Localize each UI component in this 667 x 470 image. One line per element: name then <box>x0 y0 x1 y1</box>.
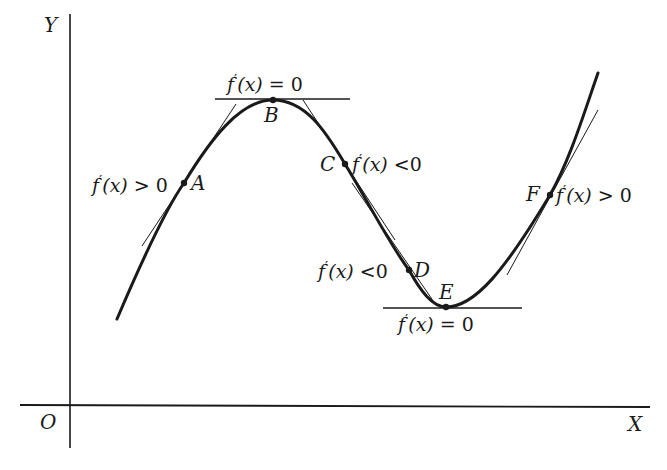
x-axis <box>20 405 650 407</box>
label-C: C <box>320 152 335 176</box>
origin-label: O <box>40 410 56 434</box>
annotation-F: f′(x) > 0 <box>554 183 632 206</box>
y-axis-label: Y <box>44 13 59 37</box>
annotation-B: f′(x) = 0 <box>225 72 303 95</box>
x-axis-label: X <box>626 412 643 436</box>
label-F: F <box>525 182 541 206</box>
annotation-A: f′(x) > 0 <box>90 173 168 196</box>
label-D: D <box>413 258 430 282</box>
point-F <box>547 192 553 198</box>
annotation-D: f′(x) <0 <box>316 259 388 282</box>
axes: Y X O <box>20 13 650 448</box>
annotation-C: f′(x) <0 <box>350 152 422 175</box>
label-A: A <box>189 171 205 195</box>
point-D <box>406 267 412 273</box>
point-E <box>443 304 449 310</box>
label-B: B <box>263 103 279 127</box>
derivative-sign-diagram: Y X O A B C D E F f′(x) > 0 f′(x) <box>0 0 667 470</box>
point-C <box>342 161 348 167</box>
tangent-D <box>352 183 436 305</box>
point-A <box>181 180 187 186</box>
label-E: E <box>438 280 454 304</box>
annotation-E: f′(x) = 0 <box>396 312 474 335</box>
